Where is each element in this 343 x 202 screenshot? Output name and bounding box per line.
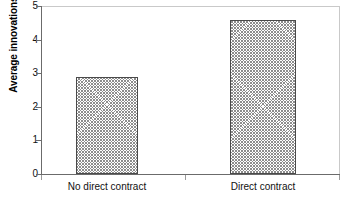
y-axis-tick-labels: 5 4 3 2 1 0 — [22, 0, 38, 202]
y-axis-title: Average innovations per project — [7, 0, 21, 102]
y-tick-mark-1 — [36, 140, 41, 141]
y-tick-mark-2 — [36, 107, 41, 108]
x-label-direct-contract: Direct contract — [208, 181, 318, 193]
x-tick-mark-left — [41, 175, 42, 180]
y-tick-mark-3 — [36, 73, 41, 74]
x-axis-line — [41, 174, 340, 175]
bar-direct-contract — [230, 20, 296, 174]
x-tick-mark-right — [339, 175, 340, 180]
y-tick-mark-4 — [36, 40, 41, 41]
y-tick-mark-5 — [36, 6, 41, 7]
bar-no-direct-contract — [76, 77, 138, 174]
x-tick-mark-middle — [185, 175, 186, 180]
x-label-no-direct-contract: No direct contract — [47, 181, 167, 193]
y-axis-line — [41, 6, 42, 175]
bar-chart: Average innovations per project 5 4 3 2 … — [0, 0, 343, 202]
